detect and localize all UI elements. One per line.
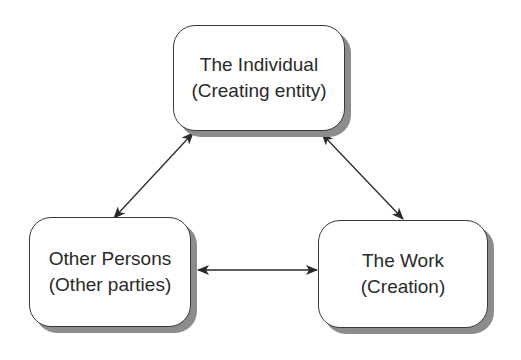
node-title: Other Persons bbox=[49, 246, 172, 272]
edge-individual-work-arrow bbox=[322, 134, 403, 219]
relationship-diagram: The Individual (Creating entity) Other P… bbox=[0, 0, 521, 360]
node-the-work: The Work (Creation) bbox=[318, 220, 488, 328]
node-other-persons: Other Persons (Other parties) bbox=[29, 217, 191, 327]
node-title: The Work bbox=[362, 248, 444, 274]
node-subtitle: (Creation) bbox=[361, 274, 445, 300]
node-the-individual: The Individual (Creating entity) bbox=[173, 25, 345, 131]
node-subtitle: (Creating entity) bbox=[191, 78, 326, 104]
node-title: The Individual bbox=[200, 52, 318, 78]
node-subtitle: (Other parties) bbox=[49, 272, 171, 298]
edge-individual-other-persons-arrow bbox=[114, 133, 193, 218]
